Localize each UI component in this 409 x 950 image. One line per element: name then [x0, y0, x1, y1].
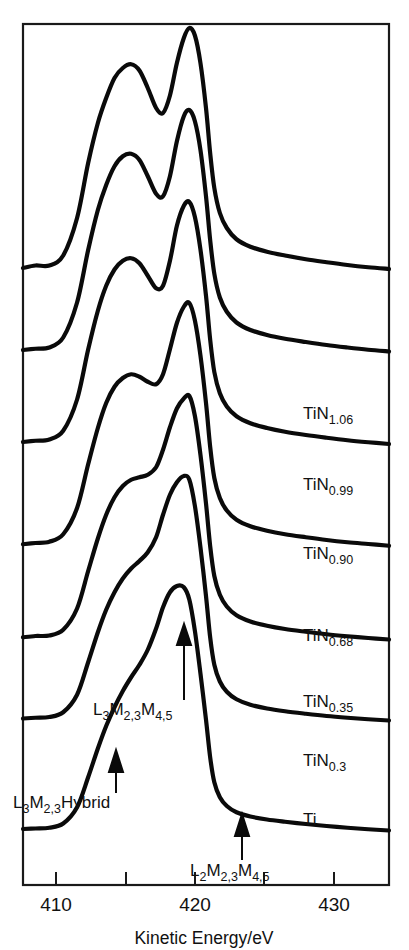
x-tick-label-430: 430 [318, 894, 350, 915]
auger-spectra-figure: 410 420 430 Kinetic Energy/eV TiN1.06 Ti… [0, 0, 409, 950]
curve-label-ti: Ti [303, 810, 317, 829]
plot-frame [23, 24, 389, 885]
curve-label-tin-1-06: TiN1.06 [303, 404, 353, 427]
spectra-plot: 410 420 430 Kinetic Energy/eV TiN1.06 Ti… [0, 0, 409, 950]
x-tick-label-420: 420 [179, 894, 211, 915]
curve-label-tin-0-35: TiN0.35 [303, 692, 353, 715]
annotation-l3m23hybrid-label: L3M2,3Hybrid [13, 793, 110, 816]
annotation-l3m23m45: L3M2,3M4,5 [93, 624, 191, 723]
annotation-l2m23m45-label: L2M2,3M4,5 [190, 861, 270, 884]
annotation-l3m23m45-label: L3M2,3M4,5 [93, 700, 173, 723]
curve-label-tin-0-68: TiN0.68 [303, 626, 353, 649]
annotation-l2m23m45: L2M2,3M4,5 [190, 814, 270, 884]
spectrum-curve-tin1-06 [23, 28, 389, 269]
curve-label-group: TiN1.06 TiN0.99 TiN0.90 TiN0.68 TiN0.35 … [303, 404, 353, 829]
x-tick-label-410: 410 [40, 894, 72, 915]
x-axis-title: Kinetic Energy/eV [134, 928, 273, 948]
annotation-l2m23m45-arrow [235, 814, 249, 860]
curve-label-tin-0-3: TiN0.3 [303, 751, 346, 774]
curve-label-tin-0-99: TiN0.99 [303, 475, 353, 498]
annotation-l3m23hybrid-arrow [109, 750, 123, 793]
annotation-l3m23m45-arrow [177, 624, 191, 700]
annotation-l3m23hybrid: L3M2,3Hybrid [13, 750, 123, 816]
curve-label-tin-0-90: TiN0.90 [303, 544, 353, 567]
